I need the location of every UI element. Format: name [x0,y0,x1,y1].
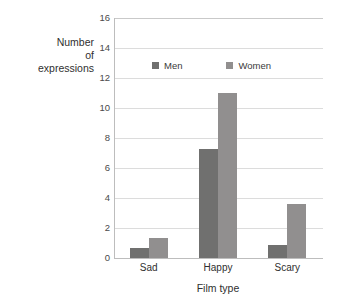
y-axis-tick-label: 4 [84,192,110,203]
y-axis-tick-label: 14 [84,42,110,53]
legend-label-women: Women [238,60,271,71]
y-axis-tick-label: 6 [84,162,110,173]
y-axis-title-line-1: Number [10,36,94,49]
legend-swatch-men-icon [152,62,159,69]
bar-scary-men [268,245,287,259]
legend-item-women: Women [226,60,271,71]
y-axis-tick-label: 12 [84,72,110,83]
y-axis-tick-label: 16 [84,12,110,23]
legend-swatch-women-icon [226,62,233,69]
y-axis-tick-label: 2 [84,222,110,233]
y-axis-tick-label: 0 [84,252,110,263]
x-axis-title: Film type [114,282,322,294]
bar-happy-women [218,93,237,258]
x-axis-line [114,258,323,259]
bar-chart: Number of expressions 0246810121416 SadH… [0,0,338,306]
bar-sad-women [149,238,168,258]
x-axis-tick-label: Happy [188,262,248,273]
x-axis-tick-label: Sad [119,262,179,273]
y-axis-tick-label: 8 [84,132,110,143]
legend-label-men: Men [164,60,182,71]
bar-happy-men [199,149,218,259]
y-axis-title: Number of expressions [10,36,94,75]
legend: Men Women [152,60,271,71]
legend-item-men: Men [152,60,182,71]
y-axis-tick-label: 10 [84,102,110,113]
bars-layer [114,18,322,258]
y-axis-title-line-3: expressions [10,62,94,75]
bar-sad-men [130,248,149,259]
bar-scary-women [287,204,306,258]
x-axis-tick-label: Scary [257,262,317,273]
y-axis-title-line-2: of [10,49,94,62]
